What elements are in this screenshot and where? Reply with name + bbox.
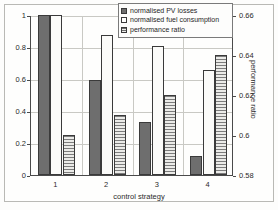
bar [139, 122, 151, 175]
legend-label: normalised fuel consumption [130, 16, 219, 24]
y-axis-left-tick-label: 0.4 [2, 108, 26, 116]
bar [152, 46, 164, 175]
y-axis-right-tick-label: 0.6 [239, 132, 265, 140]
bar [164, 95, 176, 175]
bar [38, 15, 50, 175]
category-separator [133, 16, 134, 175]
x-axis-tick-label: 1 [40, 181, 70, 189]
y-axis-right-tick-label: 0.64 [239, 52, 265, 60]
legend-label: performance ratio [130, 26, 185, 34]
y-axis-right-tick-mark [233, 56, 236, 57]
legend-item: normalised PV losses [121, 6, 230, 15]
x-axis-title: control strategy [0, 192, 278, 201]
legend-swatch-pv-losses-icon [121, 8, 127, 14]
legend-swatch-performance-ratio-icon [121, 27, 127, 33]
y-axis-left-tick-label: 0.8 [2, 44, 26, 52]
x-axis-tick-label: 2 [91, 181, 121, 189]
y-axis-right-tick-mark [233, 136, 236, 137]
legend-item: normalised fuel consumption [121, 16, 230, 25]
legend-label: normalised PV losses [130, 7, 197, 15]
legend-swatch-fuel-consumption-icon [121, 17, 127, 23]
bar [190, 156, 202, 175]
y-axis-right-tick-mark [233, 16, 236, 17]
y-axis-right-tick-mark [233, 176, 236, 177]
y-axis-right-title: performance ratio [249, 60, 258, 119]
bar [114, 115, 126, 175]
bar [203, 70, 215, 175]
bar [63, 135, 75, 175]
bar [89, 80, 101, 175]
bar [50, 15, 62, 175]
bar [101, 35, 113, 175]
x-axis-tick-label: 4 [193, 181, 223, 189]
category-separator [183, 16, 184, 175]
y-axis-right-tick-label: 0.58 [239, 172, 265, 180]
y-axis-left-tick-label: 0.2 [2, 140, 26, 148]
plot-area [30, 16, 233, 176]
chart-figure: 00.20.40.60.81 0.580.60.620.640.66 1234 … [0, 0, 278, 210]
category-separator [82, 16, 83, 175]
chart-legend: normalised PV losses normalised fuel con… [118, 3, 233, 38]
y-axis-left-tick-mark [27, 176, 30, 177]
x-axis-tick-label: 3 [142, 181, 172, 189]
bar [215, 55, 227, 175]
y-axis-left-tick-label: 0.6 [2, 76, 26, 84]
y-axis-right-tick-label: 0.66 [239, 12, 265, 20]
legend-item: performance ratio [121, 25, 230, 34]
y-axis-left-tick-label: 0 [2, 172, 26, 180]
y-axis-right-tick-mark [233, 96, 236, 97]
y-axis-left-tick-label: 1 [2, 12, 26, 20]
